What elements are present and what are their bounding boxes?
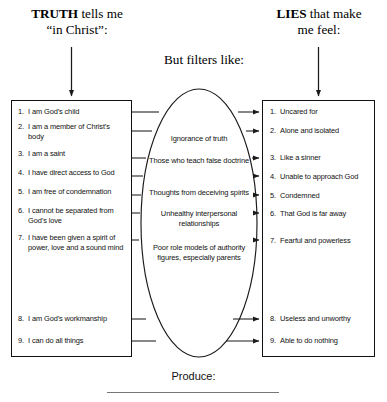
truth-item-7-text: I have been given a spirit of power, lov…: [28, 233, 125, 254]
lies-item-8: 8.Useless and unworthy: [270, 314, 379, 324]
truth-item-4-number: 4.: [18, 168, 28, 178]
truth-item-5-number: 5.: [18, 187, 28, 197]
lies-item-3-number: 3.: [270, 153, 280, 163]
lies-item-9-number: 9.: [270, 336, 280, 346]
lies-item-5-text: Condemned: [280, 191, 378, 201]
lies-item-4-number: 4.: [270, 172, 280, 182]
lies-box: 1.Uncared for 2.Alone and isolated 3.Lik…: [262, 100, 375, 357]
truth-item-4-text: I have direct access to God: [28, 168, 136, 178]
lies-item-1: 1.Uncared for: [270, 107, 379, 117]
lies-heading-line2: me feel:: [258, 22, 380, 38]
truth-item-8: 8.I am God’s workmanship: [18, 314, 136, 324]
lies-list: 1.Uncared for 2.Alone and isolated 3.Lik…: [263, 101, 374, 356]
produce-label: Produce:: [0, 370, 387, 382]
lies-item-8-text: Useless and unworthy: [280, 314, 378, 324]
filter-heading: But filters like:: [148, 52, 260, 68]
truth-item-9-number: 9.: [18, 336, 28, 346]
truth-item-7-number: 7.: [18, 233, 28, 243]
truth-item-6-text: I cannot be separated from God’s love: [28, 206, 128, 227]
lies-heading-rest: that make: [307, 6, 362, 21]
lies-heading: LIES that make me feel:: [258, 6, 380, 38]
truth-item-8-text: I am God’s workmanship: [28, 314, 136, 324]
truth-item-3-number: 3.: [18, 149, 28, 159]
truth-item-6: 6.I cannot be separated from God’s love: [18, 206, 128, 227]
truth-box: 1.I am God’s child 2.I am a member of Ch…: [11, 100, 132, 357]
truth-item-2-number: 2.: [18, 122, 28, 132]
truth-item-8-number: 8.: [18, 314, 28, 324]
lies-item-7-text: Fearful and powerless: [280, 236, 378, 246]
lies-item-4-text: Unable to approach God: [280, 172, 380, 182]
lies-item-4: 4.Unable to approach God: [270, 172, 380, 182]
truth-heading-line2: “in Christ”:: [12, 22, 142, 38]
truth-item-5: 5.I am free of condemnation: [18, 187, 136, 197]
lies-item-9-text: Able to do nothing: [280, 336, 378, 346]
lies-item-1-text: Uncared for: [280, 107, 378, 117]
lies-item-7-number: 7.: [270, 236, 280, 246]
lies-item-3: 3.Like a sinner: [270, 153, 379, 163]
truth-item-1-text: I am God’s child: [28, 107, 132, 117]
truth-item-7: 7.I have been given a spirit of power, l…: [18, 233, 125, 254]
truth-item-2-text: I am a member of Christ’s body: [28, 122, 123, 143]
truth-item-3-text: I am a saint: [28, 149, 132, 159]
lies-item-9: 9.Able to do nothing: [270, 336, 379, 346]
lies-item-6-number: 6.: [270, 209, 280, 219]
lies-item-3-text: Like a sinner: [280, 153, 378, 163]
truth-item-2: 2.I am a member of Christ’s body: [18, 122, 123, 143]
truth-item-5-text: I am free of condemnation: [28, 187, 136, 197]
filter-item-3: Thoughts from deceiving spirits: [144, 188, 254, 198]
lies-item-2-text: Alone and isolated: [280, 126, 378, 136]
truth-item-9: 9.I can do all things: [18, 336, 136, 346]
filter-item-1: Ignorance of truth: [144, 134, 254, 144]
diagram-canvas: TRUTH tells me “in Christ”: But filters …: [0, 0, 387, 402]
produce-rule: [107, 392, 279, 393]
truth-list: 1.I am God’s child 2.I am a member of Ch…: [12, 101, 131, 356]
lies-item-5: 5.Condemned: [270, 191, 379, 201]
truth-item-4: 4.I have direct access to God: [18, 168, 136, 178]
lies-item-6-text: That God is far away: [280, 209, 378, 219]
lies-heading-strong: LIES: [277, 6, 307, 21]
lies-item-5-number: 5.: [270, 191, 280, 201]
filter-item-5: Poor role models of authority figures, e…: [144, 243, 254, 263]
truth-item-9-text: I can do all things: [28, 336, 136, 346]
truth-item-1-number: 1.: [18, 107, 28, 117]
lies-item-6: 6.That God is far away: [270, 209, 379, 219]
lies-item-1-number: 1.: [270, 107, 280, 117]
truth-item-1: 1.I am God’s child: [18, 107, 132, 117]
lies-item-7: 7.Fearful and powerless: [270, 236, 379, 246]
truth-item-6-number: 6.: [18, 206, 28, 216]
filter-item-4: Unhealthy interpersonal relationships: [144, 209, 254, 229]
truth-heading: TRUTH tells me “in Christ”:: [12, 6, 142, 38]
truth-item-3: 3.I am a saint: [18, 149, 132, 159]
lies-item-2-number: 2.: [270, 126, 280, 136]
filter-item-2: Those who teach false doctrine: [144, 156, 254, 166]
truth-heading-strong: TRUTH: [31, 6, 78, 21]
truth-heading-rest: tells me: [78, 6, 123, 21]
lies-item-8-number: 8.: [270, 314, 280, 324]
lies-item-2: 2.Alone and isolated: [270, 126, 379, 136]
filter-oval: Ignorance of truth Those who teach false…: [137, 88, 261, 358]
